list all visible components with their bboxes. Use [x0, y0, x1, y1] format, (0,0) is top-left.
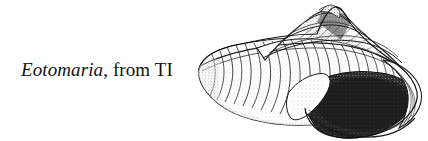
- figure-container: Eotomaria, from TI: [0, 0, 428, 141]
- caption-genus-name: Eotomaria: [21, 59, 103, 80]
- figure-caption: Eotomaria, from TI: [21, 59, 173, 81]
- caption-source-text: , from TI: [103, 59, 173, 80]
- shell-drawing: [193, 5, 421, 141]
- gastropod-shell-illustration: [193, 0, 425, 141]
